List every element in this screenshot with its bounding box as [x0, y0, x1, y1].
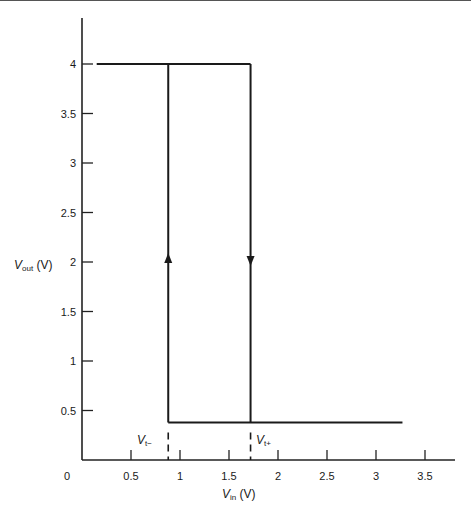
y-tick-label: 3	[70, 157, 76, 169]
axes	[82, 18, 455, 460]
y-axis-label: Vout (V)	[14, 258, 52, 273]
x-tick-label: 1	[177, 470, 183, 482]
y-tick-label: 1.5	[61, 306, 76, 318]
x-tick-label: 2	[275, 470, 281, 482]
x-tick-label: 1.5	[221, 470, 236, 482]
x-tick-label: 3.5	[417, 470, 432, 482]
origin-label: 0	[64, 470, 70, 482]
series	[97, 64, 403, 422]
y-tick-label: 2.5	[61, 207, 76, 219]
x-tick-label: 0.5	[123, 470, 138, 482]
y-tick-label: 3.5	[61, 108, 76, 120]
x-tick-label: 3	[373, 470, 379, 482]
hysteresis-chart: 0.511.522.533.50.511.522.533.54 0 Vin (V…	[0, 0, 471, 514]
arrow-down-icon	[247, 256, 255, 266]
vt-plus-label: Vt+	[256, 433, 271, 448]
arrow-up-icon	[164, 253, 172, 263]
y-tick-label: 0.5	[61, 405, 76, 417]
y-tick-label: 4	[70, 58, 76, 70]
vt-minus-label: Vt−	[137, 433, 152, 448]
y-tick-label: 1	[70, 355, 76, 367]
x-tick-label: 2.5	[319, 470, 334, 482]
y-tick-label: 2	[70, 256, 76, 268]
ticks: 0.511.522.533.50.511.522.533.54	[61, 58, 433, 482]
x-axis-label: Vin (V)	[222, 487, 256, 502]
